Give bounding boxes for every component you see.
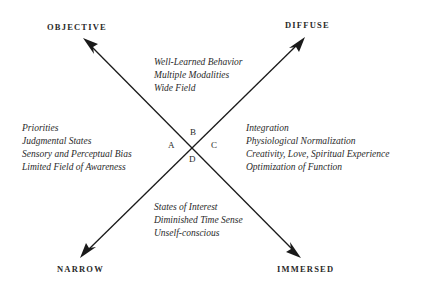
quadrant-top-text: Well-Learned Behavior Multiple Modalitie…: [154, 56, 243, 95]
quadrant-left-line: Judgmental States: [22, 135, 132, 148]
quadrant-left-text: Priorities Judgmental States Sensory and…: [22, 122, 132, 174]
quadrant-top-line: Well-Learned Behavior: [154, 56, 243, 69]
quadrant-left-line: Limited Field of Awareness: [22, 161, 132, 174]
pole-narrow: NARROW: [57, 264, 104, 274]
quadrant-right-line: Creativity, Love, Spiritual Experience: [246, 148, 389, 161]
pole-diffuse: DIFFUSE: [285, 20, 330, 30]
quadrant-bottom-text: States of Interest Diminished Time Sense…: [154, 201, 243, 240]
quadrant-left-line: Priorities: [22, 122, 132, 135]
pole-objective: OBJECTIVE: [47, 22, 107, 32]
quadrant-letter-d: D: [189, 154, 196, 164]
quadrant-top-line: Wide Field: [154, 82, 243, 95]
quadrant-letter-a: A: [168, 140, 175, 150]
quadrant-right-line: Optimization of Function: [246, 161, 389, 174]
pole-immersed: IMMERSED: [277, 264, 334, 274]
quadrant-letter-b: B: [190, 127, 196, 137]
quadrant-top-line: Multiple Modalities: [154, 69, 243, 82]
quadrant-right-text: Integration Physiological Normalization …: [246, 122, 389, 174]
quadrant-bottom-line: States of Interest: [154, 201, 243, 214]
quadrant-bottom-line: Unself-conscious: [154, 227, 243, 240]
quadrant-right-line: Physiological Normalization: [246, 135, 389, 148]
quadrant-letter-c: C: [211, 140, 217, 150]
quadrant-left-line: Sensory and Perceptual Bias: [22, 148, 132, 161]
quadrant-right-line: Integration: [246, 122, 389, 135]
quadrant-bottom-line: Diminished Time Sense: [154, 214, 243, 227]
